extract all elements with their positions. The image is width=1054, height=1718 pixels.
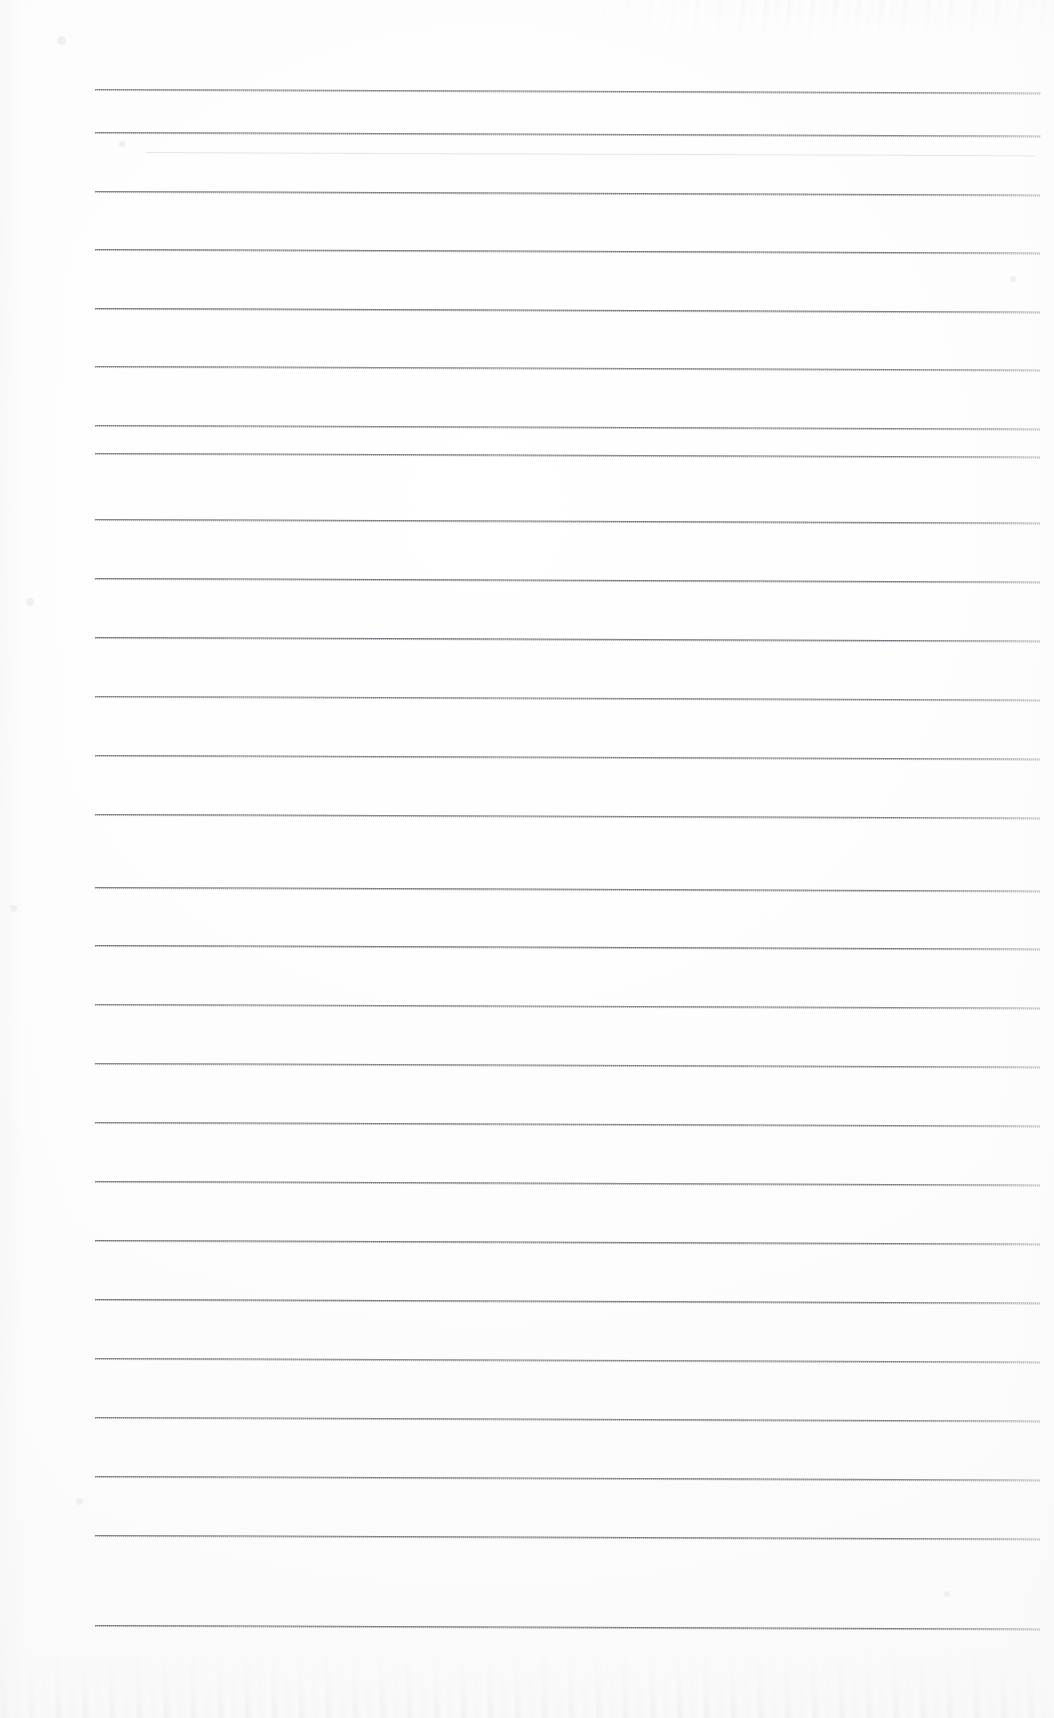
ruled-line <box>95 249 1040 254</box>
ruled-line <box>95 1476 1040 1481</box>
ruled-line-ghost <box>146 152 1035 156</box>
ruled-line <box>95 945 1040 950</box>
ruled-line <box>95 637 1040 642</box>
ruled-line <box>95 696 1040 701</box>
ruled-line <box>95 453 1040 458</box>
ruled-line <box>95 1181 1040 1186</box>
ruled-line <box>95 755 1040 760</box>
ruled-line <box>95 1625 1040 1630</box>
ruled-line <box>95 1299 1040 1304</box>
ruled-line <box>95 519 1040 524</box>
ruled-line <box>95 132 1041 137</box>
ruled-line <box>95 1122 1040 1127</box>
ruled-line <box>95 425 1040 430</box>
ruled-line <box>95 89 1041 94</box>
ruled-line <box>95 814 1040 819</box>
ruled-line <box>95 191 1040 196</box>
ruled-line <box>95 578 1040 583</box>
ruled-line <box>95 1240 1040 1245</box>
notepad-page <box>0 0 1054 1718</box>
ruled-line <box>95 1417 1040 1422</box>
ruled-line <box>95 887 1040 892</box>
ruled-line <box>95 308 1040 313</box>
ruled-lines-layer <box>0 0 1054 1718</box>
ruled-line <box>95 366 1040 371</box>
ruled-line <box>95 1358 1040 1363</box>
ruled-line <box>95 1535 1040 1540</box>
ruled-line <box>95 1063 1040 1068</box>
ruled-line <box>95 1004 1040 1009</box>
